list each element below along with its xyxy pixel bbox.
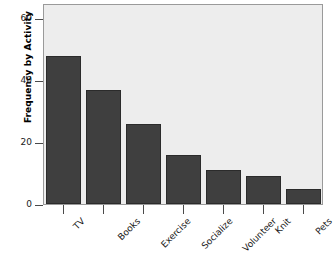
bar: [206, 170, 241, 204]
x-tick-label: TV: [71, 216, 86, 231]
bar: [126, 124, 161, 204]
bar: [246, 176, 281, 204]
x-tick-mark: [143, 205, 144, 214]
x-tick-label: Books: [116, 216, 142, 242]
y-tick-label: 60: [0, 13, 32, 23]
x-tick-mark: [103, 205, 104, 214]
bar: [286, 189, 321, 204]
x-tick-mark: [303, 205, 304, 214]
x-tick-mark: [223, 205, 224, 214]
y-tick-mark: [35, 143, 43, 144]
y-tick-label: 20: [0, 137, 32, 147]
x-tick-label: Exercise: [159, 216, 193, 250]
x-tick-mark: [263, 205, 264, 214]
bar: [46, 56, 81, 204]
y-tick-mark: [35, 19, 43, 20]
x-tick-label: Pets: [314, 216, 334, 236]
bar: [86, 90, 121, 204]
bars-layer: [43, 4, 323, 204]
x-tick-mark: [183, 205, 184, 214]
y-tick-mark: [35, 205, 43, 206]
x-tick-label: Knit: [273, 216, 293, 236]
y-tick-label: 0: [0, 199, 32, 209]
bar: [166, 155, 201, 204]
x-tick-label: Socialize: [200, 216, 235, 251]
y-tick-mark: [35, 81, 43, 82]
x-tick-label: Volunteer: [241, 216, 279, 254]
y-tick-label: 40: [0, 75, 32, 85]
x-tick-mark: [63, 205, 64, 214]
